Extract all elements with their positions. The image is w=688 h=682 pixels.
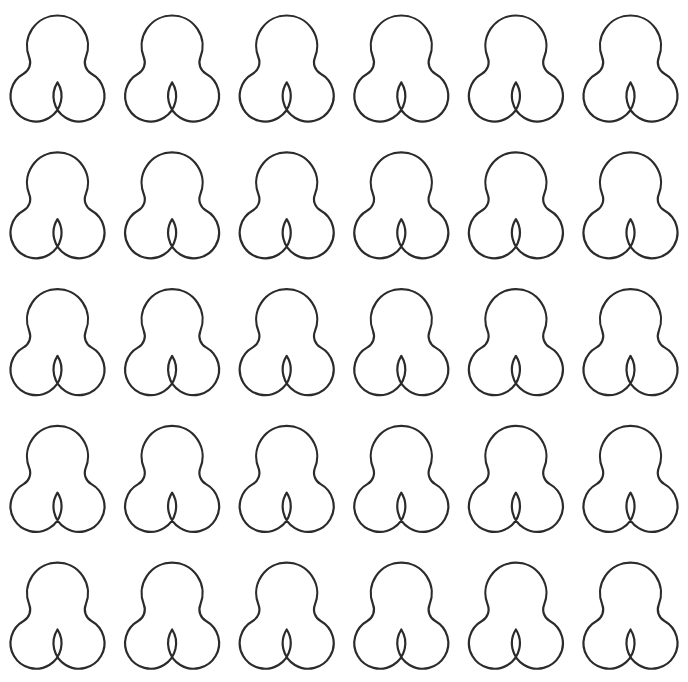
trefoil-grid-svg [0, 0, 688, 682]
pattern-canvas [0, 0, 688, 682]
